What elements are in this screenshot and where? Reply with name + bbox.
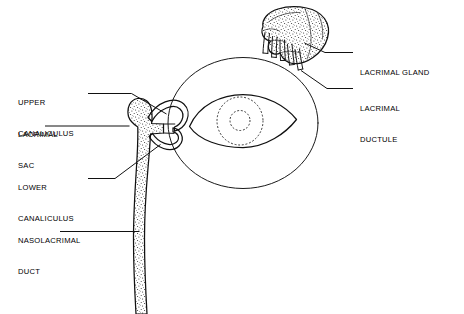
lacrimal-drainage-system <box>128 98 188 314</box>
label-nasolacrimal-duct: NASOLACRIMAL DUCT <box>18 216 81 298</box>
label-lacrimal-ductule-line1: LACRIMAL <box>360 104 400 114</box>
label-lower-canaliculus-line1: LOWER <box>18 183 74 193</box>
palpebral-fissure <box>190 95 297 148</box>
label-nasolacrimal-duct-line2: DUCT <box>18 267 81 277</box>
label-lacrimal-gland-line1: LACRIMAL GLAND <box>360 68 429 78</box>
leader-lacrimal-ductule <box>301 71 353 89</box>
lacrimal-sac <box>128 98 164 314</box>
label-upper-canaliculus-line1: UPPER <box>18 98 74 108</box>
leader-lines <box>45 43 353 232</box>
label-lacrimal-ductule-line2: DUCTULE <box>360 135 400 145</box>
pupil-dashed-circle <box>230 111 250 131</box>
label-nasolacrimal-duct-line1: NASOLACRIMAL <box>18 236 81 246</box>
iris-dashed-circle <box>217 97 263 145</box>
leader-upper-canaliculus <box>88 94 167 115</box>
lacrimal-apparatus-diagram: UPPER CANALICULUS LACRIMAL SAC LOWER CAN… <box>0 0 464 314</box>
label-lacrimal-sac-line1: LACRIMAL <box>18 130 58 140</box>
label-lacrimal-ductule: LACRIMAL DUCTULE <box>360 84 400 166</box>
